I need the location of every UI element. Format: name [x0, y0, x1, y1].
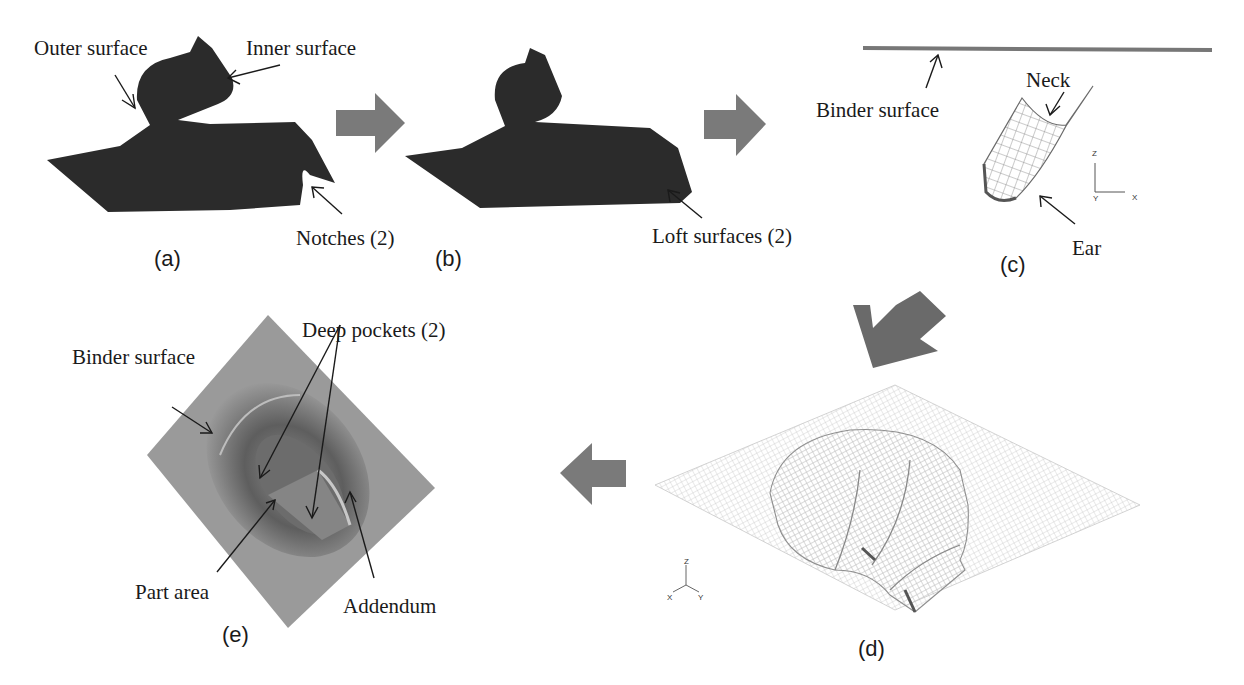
label-deep-pockets: Deep pockets (2)	[302, 320, 445, 341]
label-binder-surface-e: Binder surface	[72, 347, 195, 368]
axis-label-d-z: Z	[684, 558, 689, 566]
label-inner-surface: Inner surface	[246, 38, 356, 59]
label-ear: Ear	[1072, 238, 1101, 259]
axis-label-y: Y	[1093, 195, 1098, 203]
label-loft-surfaces: Loft surfaces (2)	[652, 226, 792, 247]
caption-a: (a)	[154, 248, 181, 270]
flow-arrow-a-b	[336, 93, 405, 153]
caption-d: (d)	[858, 638, 885, 660]
flow-arrow-b-c	[704, 94, 766, 156]
panel-c-mesh	[984, 86, 1093, 200]
label-binder-surface-c: Binder surface	[816, 100, 939, 121]
caption-e: (e)	[222, 624, 249, 646]
label-part-area: Part area	[135, 582, 209, 603]
panel-d-mesh	[655, 385, 1140, 612]
caption-c: (c)	[1000, 254, 1026, 276]
axis-label-z: Z	[1092, 150, 1097, 158]
flow-arrow-c-d	[853, 291, 946, 368]
label-addendum: Addendum	[343, 596, 436, 617]
caption-b: (b)	[435, 248, 462, 270]
panel-b-solid	[405, 48, 692, 208]
label-notches: Notches (2)	[296, 228, 395, 249]
flow-arrow-d-e	[560, 443, 626, 505]
panel-d-axis-triad	[673, 565, 699, 592]
axis-label-d-x: X	[667, 594, 672, 602]
binder-surface-line	[863, 48, 1212, 50]
axis-label-x: X	[1132, 194, 1137, 202]
axis-label-d-y: Y	[698, 594, 703, 602]
label-neck: Neck	[1026, 70, 1070, 91]
label-outer-surface: Outer surface	[34, 38, 148, 59]
panel-a-solid	[47, 36, 335, 212]
panel-c-axis-triad	[1095, 163, 1125, 192]
